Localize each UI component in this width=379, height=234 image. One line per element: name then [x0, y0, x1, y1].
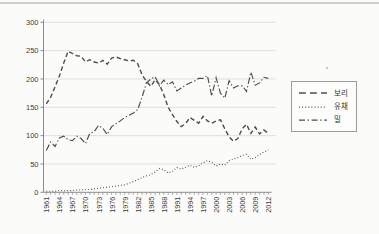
- svg-text:2006: 2006: [238, 197, 247, 213]
- legend-item-barley: 보리: [298, 90, 356, 98]
- svg-text:0: 0: [34, 188, 38, 197]
- wheat-dashdot-line-sample: [298, 117, 328, 123]
- svg-text:100: 100: [26, 131, 39, 140]
- svg-text:50: 50: [30, 160, 38, 169]
- svg-text:1961: 1961: [42, 197, 51, 213]
- svg-text:2000: 2000: [212, 197, 221, 213]
- svg-text:2012: 2012: [264, 197, 273, 213]
- artifact-speck: [326, 67, 328, 69]
- svg-text:1982: 1982: [134, 197, 143, 213]
- svg-text:1973: 1973: [95, 197, 104, 213]
- legend-item-wheat: 밀: [298, 116, 356, 124]
- svg-text:1970: 1970: [81, 197, 90, 213]
- svg-text:1985: 1985: [147, 197, 156, 213]
- svg-text:1991: 1991: [173, 197, 182, 213]
- svg-text:1997: 1997: [199, 197, 208, 213]
- svg-text:1994: 1994: [186, 197, 195, 213]
- svg-text:1967: 1967: [68, 197, 77, 213]
- svg-text:1979: 1979: [121, 197, 130, 213]
- rapeseed-dotted-line-sample: [298, 104, 328, 110]
- svg-text:1988: 1988: [160, 197, 169, 213]
- svg-text:250: 250: [26, 46, 39, 55]
- legend-item-rapeseed: 유채: [298, 103, 356, 111]
- legend-label-rapeseed: 유채: [334, 103, 348, 111]
- svg-text:1976: 1976: [108, 197, 117, 213]
- chart-legend: 보리 유채 밀: [291, 81, 357, 132]
- svg-text:200: 200: [26, 75, 39, 84]
- svg-text:2009: 2009: [251, 197, 260, 213]
- legend-label-wheat: 밀: [334, 116, 341, 124]
- svg-text:2003: 2003: [225, 197, 234, 213]
- svg-text:1964: 1964: [55, 197, 64, 213]
- svg-text:150: 150: [26, 103, 39, 112]
- legend-label-barley: 보리: [334, 90, 348, 98]
- svg-text:300: 300: [26, 18, 39, 27]
- barley-dashed-line-sample: [298, 90, 328, 96]
